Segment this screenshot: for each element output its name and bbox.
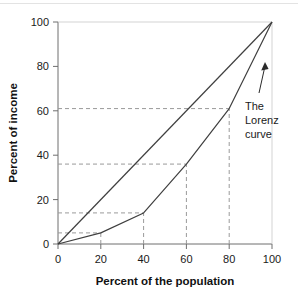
annotation-line-1: The: [245, 100, 264, 112]
lorenz-curve-figure: 020406080100 020406080100 The Lorenz cur…: [0, 0, 298, 296]
chart-canvas: 020406080100 020406080100 The Lorenz cur…: [0, 0, 298, 296]
x-tick-label: 100: [263, 253, 281, 265]
y-tick-label: 100: [31, 16, 49, 28]
x-tick-group: 020406080100: [55, 244, 281, 265]
y-tick-group: 020406080100: [31, 16, 58, 250]
x-axis-title: Percent of the population: [96, 275, 235, 287]
reference-line-group: [58, 109, 229, 244]
annotation-label: The Lorenz curve: [245, 100, 279, 140]
y-tick-label: 80: [37, 60, 49, 72]
y-tick-label: 40: [37, 149, 49, 161]
equality-line: [58, 22, 272, 244]
annotation-line-3: curve: [245, 128, 272, 140]
x-tick-label: 40: [137, 253, 149, 265]
annotation-line-2: Lorenz: [245, 114, 279, 126]
x-tick-label: 0: [55, 253, 61, 265]
y-tick-label: 60: [37, 105, 49, 117]
x-tick-label: 80: [223, 253, 235, 265]
y-tick-label: 0: [43, 238, 49, 250]
x-tick-label: 60: [180, 253, 192, 265]
top-divider: [0, 3, 298, 4]
annotation-arrow: [259, 62, 269, 93]
y-tick-label: 20: [37, 194, 49, 206]
x-tick-label: 20: [95, 253, 107, 265]
y-axis-title: Percent of income: [7, 83, 19, 183]
